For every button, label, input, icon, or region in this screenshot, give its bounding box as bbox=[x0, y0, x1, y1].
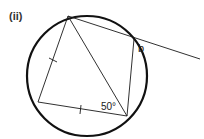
side-ad bbox=[38, 16, 68, 102]
circle bbox=[27, 16, 147, 136]
angle-label-50: 50° bbox=[101, 101, 116, 112]
unknown-angle-label-b: b bbox=[138, 42, 144, 54]
side-bc bbox=[127, 39, 134, 116]
diagonal-ac bbox=[68, 16, 127, 116]
cyclic-quadrilateral-diagram: (ii) 50° b bbox=[0, 0, 204, 139]
equal-mark-dc bbox=[80, 105, 81, 114]
part-label: (ii) bbox=[9, 10, 23, 22]
secant-line-ab-extended bbox=[68, 16, 200, 59]
